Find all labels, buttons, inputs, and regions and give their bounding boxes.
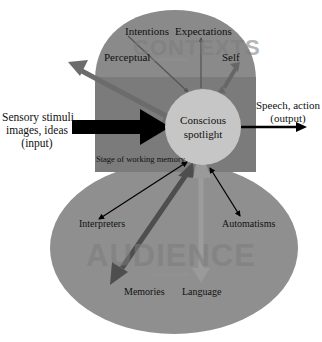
- diagram-canvas: CONTEXTS (unconscious) AUDIENCE (unconsc…: [0, 0, 322, 342]
- output-line-1: Speech, action: [253, 99, 322, 112]
- contexts-subtitle: (unconscious): [150, 56, 187, 62]
- output-line-2: (output): [253, 112, 322, 125]
- audience-watermark: AUDIENCE: [86, 238, 256, 274]
- label-expectations: Expectations: [175, 25, 232, 37]
- spotlight-line-2: spotlight: [171, 127, 235, 141]
- input-line-2: images, ideas: [2, 124, 72, 137]
- label-automatisms: Automatisms: [222, 218, 275, 230]
- label-perceptual: Perceptual: [104, 51, 150, 63]
- input-line-3: (input): [2, 137, 72, 150]
- spotlight-label: Conscious spotlight: [171, 113, 235, 141]
- audience-subtitle: (unconscious): [152, 271, 189, 277]
- label-language: Language: [182, 286, 221, 298]
- spotlight-line-1: Conscious: [171, 113, 235, 127]
- label-self: Self: [222, 51, 240, 63]
- label-interpreters: Interpreters: [79, 218, 125, 230]
- label-memories: Memories: [124, 286, 165, 298]
- label-intentions: Intentions: [125, 25, 169, 37]
- output-label: Speech, action (output): [253, 99, 322, 125]
- working-memory-label: Stage of working memory: [96, 153, 185, 165]
- input-line-1: Sensory stimuli,: [2, 111, 72, 124]
- input-label: Sensory stimuli, images, ideas (input): [2, 111, 72, 150]
